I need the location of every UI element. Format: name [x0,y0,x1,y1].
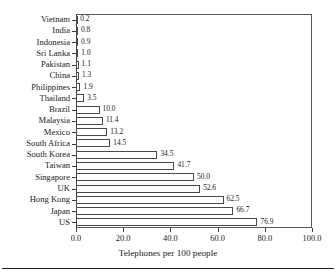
bar-value-label: 0.2 [80,13,89,24]
category-label: South Africa [26,138,70,149]
x-axis-tick-label: 60.0 [198,233,238,244]
category-label: Singapore [35,172,70,183]
y-axis-tick [72,144,76,145]
bar-value-label: 1.9 [83,81,92,92]
bar [76,49,78,57]
x-axis-tick [218,228,219,232]
y-axis-tick [72,222,76,223]
bar [76,128,107,136]
bar [76,173,194,181]
category-label: India [52,25,70,36]
bar [76,83,80,91]
category-label: Mexico [44,127,70,138]
bar [76,218,257,226]
x-axis-tick [76,228,77,232]
y-axis-tick [72,211,76,212]
category-label: Thailand [39,93,70,104]
y-axis-tick [72,110,76,111]
bar-value-label: 13.2 [110,126,123,137]
bar-value-label: 52.6 [203,182,216,193]
x-axis-tick [170,228,171,232]
telephones-bar-chart: 0.20.80.91.01.11.31.93.510.011.413.214.5… [0,0,336,276]
y-axis-tick [72,20,76,21]
category-label: Brazil [49,104,70,115]
page-divider-rule [2,268,334,269]
y-axis-tick [72,53,76,54]
bar-value-label: 10.0 [103,103,116,114]
bar [76,94,84,102]
bar-value-label: 50.0 [197,171,210,182]
bar-row: 52.6 [0,183,336,194]
bar-value-label: 1.0 [81,47,90,58]
bar [76,16,78,24]
x-axis-tick-label: 100.0 [292,233,332,244]
bar-value-label: 14.5 [113,137,126,148]
bar-value-label: 76.9 [260,216,273,227]
bar-value-label: 0.9 [81,36,90,47]
bar-value-label: 41.7 [177,159,190,170]
bar [76,185,200,193]
x-axis-tick [312,228,313,232]
bar [76,196,224,204]
y-axis-tick [72,121,76,122]
bar-value-label: 1.1 [82,58,91,69]
x-axis-title: Telephones per 100 people [0,248,336,258]
bar-row: 76.9 [0,217,336,228]
bar [76,162,174,170]
category-label: Hong Kong [30,194,70,205]
x-axis-tick [265,228,266,232]
bar [76,27,78,35]
x-axis-tick-label: 20.0 [103,233,143,244]
category-label: Sri Lanka [36,48,70,59]
category-label: Pakistan [41,59,70,70]
bar [76,61,79,69]
category-label: Malaysia [38,115,70,126]
y-axis-tick [72,189,76,190]
y-axis-tick [72,166,76,167]
category-label: Japan [50,206,70,217]
y-axis-tick [72,155,76,156]
bar-value-label: 62.5 [227,193,240,204]
x-axis-tick-label: 80.0 [245,233,285,244]
bar-value-label: 1.3 [82,69,91,80]
bar-value-label: 0.8 [81,24,90,35]
bar-row: 0.8 [0,25,336,36]
category-label: Vietnam [41,14,70,25]
y-axis-tick [72,31,76,32]
y-axis-tick [72,177,76,178]
y-axis-tick [72,87,76,88]
y-axis-tick [72,98,76,99]
category-label: China [49,70,70,81]
category-label: South Korea [27,149,70,160]
bar [76,139,110,147]
bar-value-label: 11.4 [106,114,119,125]
x-axis-tick-label: 0.0 [56,233,96,244]
category-label: Taiwan [45,160,70,171]
x-axis-tick [123,228,124,232]
category-label: UK [58,183,70,194]
category-label: US [59,217,70,228]
y-axis-tick [72,132,76,133]
bar [76,106,100,114]
bar-value-label: 66.7 [236,204,249,215]
bar [76,38,78,46]
bar-value-label: 34.5 [160,148,173,159]
category-label: Indonesia [37,37,70,48]
y-axis-tick [72,200,76,201]
x-axis-tick-label: 40.0 [150,233,190,244]
bar [76,207,233,215]
y-axis-tick [72,65,76,66]
category-label: Philippines [31,82,70,93]
y-axis-tick [72,42,76,43]
y-axis-tick [72,76,76,77]
bar [76,72,79,80]
bar [76,151,157,159]
bar-value-label: 3.5 [87,92,96,103]
bar [76,117,103,125]
